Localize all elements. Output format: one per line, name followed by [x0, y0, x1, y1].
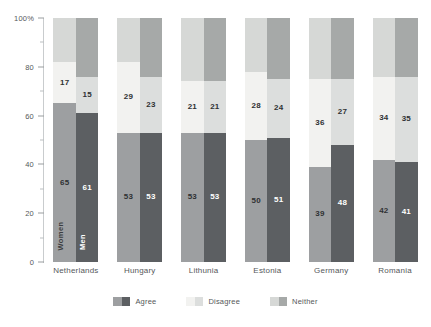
segment-germany-women-neither: [309, 18, 332, 79]
segment-hungary-women-disagree: 29: [117, 62, 140, 133]
segment-value: 50: [252, 197, 261, 205]
segment-estonia-women-neither: [245, 18, 268, 72]
y-tick-label-0: 0: [30, 258, 34, 267]
bar-netherlands-men[interactable]: 6115Men: [76, 18, 99, 262]
segment-lithunia-men-agree: 53: [204, 133, 227, 262]
segment-lithunia-women-agree: 53: [181, 133, 204, 262]
segment-value: 41: [402, 208, 411, 216]
segment-hungary-men-disagree: 23: [140, 77, 163, 133]
segment-value: 53: [188, 193, 197, 201]
bar-estonia-men[interactable]: 5124: [267, 18, 290, 262]
y-tick-label-40: 40: [25, 160, 34, 169]
segment-hungary-men-neither: [140, 18, 163, 77]
segment-lithunia-women-disagree: 21: [181, 81, 204, 132]
segment-estonia-men-neither: [267, 18, 290, 79]
bar-hungary-men[interactable]: 5323: [140, 18, 163, 262]
segment-value: 24: [274, 104, 283, 112]
segment-romania-women-neither: [373, 18, 396, 77]
segment-value: 15: [83, 91, 92, 99]
bar-lithunia-men[interactable]: 5321: [204, 18, 227, 262]
x-tick-label-estonia: Estonia: [236, 266, 300, 275]
x-tick-label-hungary: Hungary: [108, 266, 172, 275]
segment-value: 29: [124, 93, 133, 101]
y-tick-label-80: 80: [25, 62, 34, 71]
segment-germany-women-disagree: 36: [309, 79, 332, 167]
segment-romania-men-neither: [395, 18, 418, 77]
bar-lithunia-women[interactable]: 5321: [181, 18, 204, 262]
plot-area: 6517Women6115Men532953235321532150285124…: [44, 18, 427, 262]
segment-value: 42: [379, 207, 388, 215]
segment-value: 35: [402, 115, 411, 123]
x-tick-label-romania: Romania: [363, 266, 427, 275]
stacked-bar-chart: 020406080100% 6517Women6115Men5329532353…: [0, 0, 431, 327]
segment-value: 28: [252, 102, 261, 110]
segment-estonia-women-disagree: 28: [245, 72, 268, 140]
segment-hungary-women-agree: 53: [117, 133, 140, 262]
segment-hungary-women-neither: [117, 18, 140, 62]
x-axis-category-labels: NetherlandsHungaryLithuniaEstoniaGermany…: [44, 266, 427, 280]
bar-group-germany: 39364827: [309, 18, 354, 262]
bar-group-estonia: 50285124: [245, 18, 290, 262]
bar-romania-women[interactable]: 4234: [373, 18, 396, 262]
legend-label: Agree: [135, 297, 156, 306]
segment-romania-men-disagree: 35: [395, 77, 418, 162]
bar-germany-men[interactable]: 4827: [331, 18, 354, 262]
legend-swatch-disagree-icon: [186, 297, 203, 306]
bar-group-romania: 42344135: [373, 18, 418, 262]
segment-value: 53: [124, 193, 133, 201]
legend-item-agree[interactable]: Agree: [113, 297, 156, 306]
segment-value: 48: [338, 199, 347, 207]
bar-series-label-men: Men: [78, 234, 87, 250]
segment-germany-men-disagree: 27: [331, 79, 354, 145]
segment-germany-men-agree: 48: [331, 145, 354, 262]
segment-germany-women-agree: 39: [309, 167, 332, 262]
segment-romania-women-disagree: 34: [373, 77, 396, 160]
segment-value: 34: [379, 114, 388, 122]
y-axis: 020406080100%: [0, 18, 44, 262]
segment-value: 21: [210, 103, 219, 111]
legend-item-disagree[interactable]: Disagree: [186, 297, 240, 306]
segment-estonia-women-agree: 50: [245, 140, 268, 262]
bar-group-hungary: 53295323: [117, 18, 162, 262]
bar-estonia-women[interactable]: 5028: [245, 18, 268, 262]
bar-netherlands-women[interactable]: 6517Women: [53, 18, 76, 262]
segment-value: 36: [315, 119, 324, 127]
x-tick-label-lithunia: Lithunia: [172, 266, 236, 275]
segment-value: 61: [83, 184, 92, 192]
segment-value: 17: [60, 79, 69, 87]
segment-value: 51: [274, 196, 283, 204]
segment-romania-men-agree: 41: [395, 162, 418, 262]
segment-netherlands-men-disagree: 15: [76, 77, 99, 114]
segment-value: 23: [146, 101, 155, 109]
bar-germany-women[interactable]: 3936: [309, 18, 332, 262]
legend-swatch-agree-icon: [113, 297, 130, 306]
y-tick-label-100: 100%: [14, 14, 34, 23]
segment-value: 65: [60, 179, 69, 187]
x-tick-label-netherlands: Netherlands: [44, 266, 108, 275]
bar-hungary-women[interactable]: 5329: [117, 18, 140, 262]
legend-label: Disagree: [208, 297, 240, 306]
legend-label: Neither: [292, 297, 318, 306]
segment-netherlands-men-neither: [76, 18, 99, 77]
segment-value: 53: [210, 193, 219, 201]
bar-group-lithunia: 53215321: [181, 18, 226, 262]
segment-estonia-men-disagree: 24: [267, 79, 290, 138]
segment-romania-women-agree: 42: [373, 160, 396, 262]
segment-value: 27: [338, 108, 347, 116]
segment-value: 53: [146, 193, 155, 201]
y-tick-label-60: 60: [25, 111, 34, 120]
legend-swatch-neither-icon: [270, 297, 287, 306]
y-tick-label-20: 20: [25, 209, 34, 218]
segment-lithunia-men-neither: [204, 18, 227, 81]
segment-hungary-men-agree: 53: [140, 133, 163, 262]
segment-value: 39: [315, 210, 324, 218]
segment-value: 21: [188, 103, 197, 111]
bar-romania-men[interactable]: 4135: [395, 18, 418, 262]
chart-legend: AgreeDisagreeNeither: [0, 294, 431, 308]
legend-item-neither[interactable]: Neither: [270, 297, 318, 306]
bar-series-label-women: Women: [56, 222, 65, 251]
segment-germany-men-neither: [331, 18, 354, 79]
bar-group-netherlands: 6517Women6115Men: [53, 18, 98, 262]
segment-netherlands-women-neither: [53, 18, 76, 62]
x-tick-label-germany: Germany: [299, 266, 363, 275]
